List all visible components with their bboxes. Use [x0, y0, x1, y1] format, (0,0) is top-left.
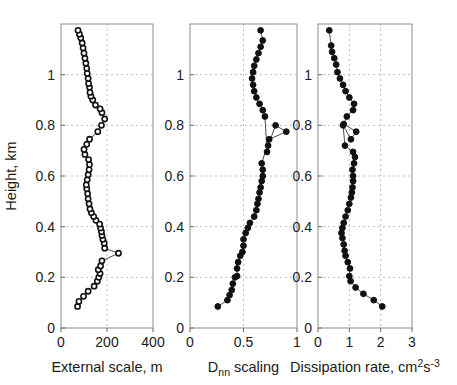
data-point	[266, 136, 272, 142]
x-tick-label: 0	[186, 334, 194, 350]
multi-panel-profile-chart: Height, km020040000.20.40.60.81External …	[0, 0, 457, 385]
y-tick-label: 0.2	[165, 269, 185, 285]
axis-title-base: Dissipation rate, cm	[290, 359, 417, 375]
data-point	[251, 214, 257, 220]
data-point	[250, 69, 256, 75]
data-point	[337, 76, 343, 82]
data-point	[235, 259, 241, 265]
data-point	[265, 143, 271, 149]
data-point	[351, 101, 357, 107]
y-tick-label: 0.4	[36, 219, 56, 235]
data-point	[343, 88, 349, 94]
data-point	[75, 28, 80, 33]
x-tick-label: 0	[57, 334, 65, 350]
data-point	[343, 214, 349, 220]
panel-left: 020040000.20.40.60.81External scale, m	[36, 24, 165, 375]
y-tick-label: 0.8	[293, 117, 313, 133]
data-point	[260, 167, 266, 173]
data-point	[350, 149, 356, 155]
data-point	[256, 50, 262, 56]
data-point	[283, 129, 289, 135]
y-tick-label: 0	[176, 320, 184, 336]
data-point	[257, 101, 263, 107]
data-point	[260, 173, 266, 179]
x-axis-title: Dissipation rate, cm2s-3	[290, 357, 440, 375]
data-point	[328, 43, 334, 49]
data-point	[333, 62, 339, 68]
data-point	[345, 259, 351, 265]
data-point	[350, 167, 356, 173]
x-tick-label: 0	[314, 334, 322, 350]
axis-title-subscript: nn	[218, 366, 230, 378]
data-point	[342, 248, 348, 254]
data-point	[99, 123, 104, 128]
data-point	[81, 294, 86, 299]
data-point	[350, 107, 356, 113]
x-axis-title: Dnn scaling	[208, 359, 279, 378]
data-point	[346, 273, 352, 279]
data-point	[253, 57, 259, 63]
data-point	[346, 201, 352, 207]
data-point	[351, 160, 357, 166]
data-point	[350, 173, 356, 179]
y-tick-label: 0.6	[293, 168, 313, 184]
data-point	[241, 236, 247, 242]
data-point	[353, 285, 359, 291]
x-tick-label: 1	[345, 334, 353, 350]
data-point	[342, 143, 348, 149]
y-tick-label: 1	[176, 67, 184, 83]
axis-title-tail: scaling	[230, 359, 279, 375]
data-point	[262, 114, 268, 120]
y-tick-label: 1	[304, 67, 312, 83]
data-point	[250, 82, 256, 88]
data-point	[340, 82, 346, 88]
data-point	[371, 297, 377, 303]
data-point	[258, 27, 264, 33]
y-tick-label: 0.2	[293, 269, 313, 285]
data-point	[247, 220, 253, 226]
data-point	[258, 185, 264, 191]
data-point	[240, 249, 246, 255]
data-point	[253, 95, 259, 101]
data-point	[273, 122, 279, 128]
y-tick-label: 0.4	[165, 219, 185, 235]
data-point	[251, 88, 257, 94]
data-point	[92, 284, 97, 289]
data-point	[345, 207, 351, 213]
data-point	[341, 242, 347, 248]
x-tick-label: 2	[377, 334, 385, 350]
data-point	[341, 121, 347, 127]
y-tick-label: 0	[47, 320, 55, 336]
axis-title-base: D	[208, 359, 218, 375]
axis-title-superscript-2: -3	[431, 357, 440, 369]
x-tick-label: 3	[408, 334, 416, 350]
y-tick-label: 1	[47, 67, 55, 83]
data-point	[353, 129, 359, 135]
data-point	[241, 243, 247, 249]
data-point	[215, 304, 221, 310]
data-point	[347, 266, 353, 272]
data-point	[341, 220, 347, 226]
data-point	[348, 136, 354, 142]
data-point	[230, 281, 236, 287]
data-point	[253, 207, 259, 213]
x-tick-label: 200	[95, 334, 119, 350]
data-point	[326, 27, 332, 33]
data-point	[331, 55, 337, 61]
data-point	[86, 289, 91, 294]
y-tick-label: 0.8	[165, 117, 185, 133]
data-point	[102, 116, 107, 121]
y-tick-label: 0.2	[36, 269, 56, 285]
data-point	[256, 196, 262, 202]
panel-middle: 00.5100.20.40.60.81Dnn scaling	[165, 24, 302, 378]
figure-panel-group: Height, km020040000.20.40.60.81External …	[0, 0, 457, 385]
y-tick-label: 0	[304, 320, 312, 336]
axis-title-mid: s	[423, 359, 430, 375]
data-point	[329, 49, 335, 55]
data-point	[361, 291, 367, 297]
x-tick-label: 400	[141, 334, 165, 350]
data-point	[344, 114, 350, 120]
data-point	[76, 299, 81, 304]
y-axis-label: Height, km	[3, 141, 19, 210]
data-point	[234, 273, 240, 279]
